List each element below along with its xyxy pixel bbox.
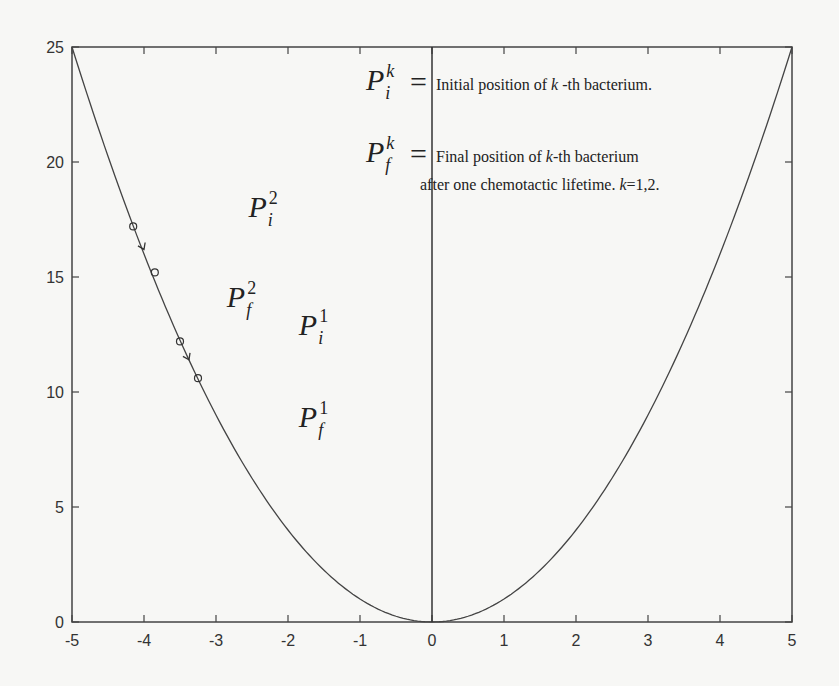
- annotation-line-1: Initial position of k -th bacterium.: [436, 76, 652, 94]
- equals-sign-1: =: [410, 65, 427, 98]
- legend-annotation: Pik = Initial position of k -th bacteriu…: [365, 61, 660, 193]
- point-label: Pf2: [226, 278, 256, 320]
- x-tick-label: -2: [281, 632, 295, 649]
- point-label: Pi1: [298, 306, 328, 348]
- annotation-symbol-final: Pfk: [365, 133, 395, 175]
- x-tick-label: -4: [137, 632, 151, 649]
- x-tick-label: 5: [788, 632, 797, 649]
- bacteria-markers: [130, 223, 202, 382]
- x-tick-label: 1: [500, 632, 509, 649]
- y-tick-label: 5: [55, 499, 64, 516]
- x-tick-label: 4: [716, 632, 725, 649]
- point-label: Pf1: [298, 398, 328, 440]
- annotation-symbol-initial: Pik: [365, 61, 395, 103]
- chart: -5-4-3-2-1012345 0510152025 Pi2Pf2Pi1Pf1…: [0, 0, 839, 686]
- point-labels: Pi2Pf2Pi1Pf1: [226, 188, 328, 439]
- point-label: Pi2: [247, 188, 277, 230]
- x-tick-label: 2: [572, 632, 581, 649]
- x-tick-label: 3: [644, 632, 653, 649]
- x-tick-label: -3: [209, 632, 223, 649]
- x-tick-label: 0: [428, 632, 437, 649]
- annotation-line-3: after one chemotactic lifetime. k=1,2.: [420, 176, 660, 193]
- y-tick-label: 20: [46, 154, 64, 171]
- final-position-marker: [151, 269, 158, 276]
- y-tick-label: 15: [46, 269, 64, 286]
- x-tick-label: -1: [353, 632, 367, 649]
- x-tick-label: -5: [65, 632, 79, 649]
- annotation-line-2: Final position of k-th bacterium: [436, 148, 639, 166]
- y-tick-label: 25: [46, 39, 64, 56]
- x-axis: -5-4-3-2-1012345: [65, 47, 797, 649]
- y-tick-label: 0: [55, 614, 64, 631]
- y-tick-label: 10: [46, 384, 64, 401]
- equals-sign-2: =: [410, 137, 427, 170]
- y-axis: 0510152025: [46, 39, 792, 631]
